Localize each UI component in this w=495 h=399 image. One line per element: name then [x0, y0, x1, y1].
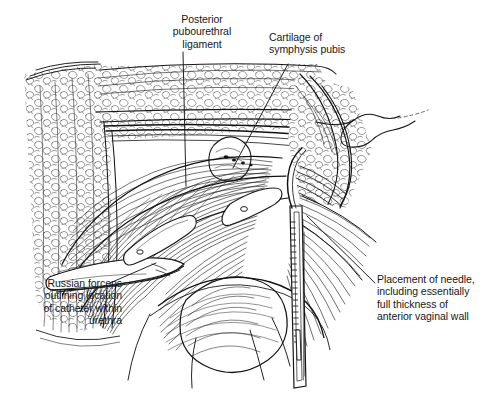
surgical-illustration [0, 0, 495, 399]
label-russian-forceps: Russian forceps outlining location of ca… [4, 277, 122, 327]
label-posterior-pubourethral-ligament: Posterior pubourethral ligament [146, 13, 258, 50]
label-cartilage-of-symphysis-pubis: Cartilage of symphysis pubis [269, 31, 373, 56]
label-placement-of-needle: Placement of needle, including essential… [377, 273, 495, 323]
